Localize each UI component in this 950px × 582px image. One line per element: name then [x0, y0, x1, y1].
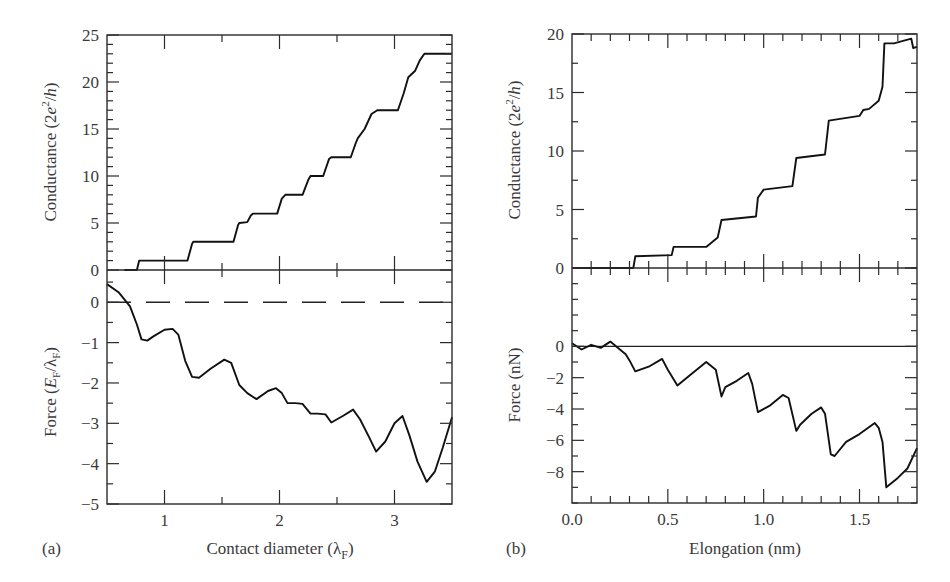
svg-text:5: 5: [91, 214, 100, 233]
svg-text:5: 5: [556, 201, 565, 220]
figure: 0510152025−5−4−3−2−10123 Conductance (2e…: [0, 0, 950, 582]
ylabel-force-a: Force (EF/λF): [41, 347, 62, 437]
svg-text:20: 20: [547, 25, 564, 44]
ylabel-force-b: Force (nN): [505, 347, 524, 422]
svg-text:0: 0: [556, 259, 565, 278]
svg-text:3: 3: [390, 511, 399, 530]
svg-text:0: 0: [91, 261, 100, 280]
svg-text:−2: −2: [546, 369, 564, 388]
svg-text:0.5: 0.5: [657, 510, 678, 529]
svg-text:1: 1: [160, 511, 169, 530]
svg-text:−4: −4: [81, 455, 100, 474]
xlabel-b: Elongation (nm): [689, 539, 801, 558]
conductance-curve-a: [124, 54, 452, 270]
svg-text:−2: −2: [81, 374, 99, 393]
svg-text:15: 15: [547, 84, 564, 103]
xlabel-a: Contact diameter (λF): [206, 539, 353, 562]
tick-labels-a: 0510152025−5−4−3−2−10123: [81, 26, 399, 530]
svg-text:−8: −8: [546, 463, 564, 482]
svg-text:−3: −3: [81, 414, 99, 433]
svg-text:0: 0: [556, 337, 565, 356]
svg-text:−4: −4: [546, 400, 565, 419]
svg-text:20: 20: [82, 73, 99, 92]
svg-text:10: 10: [82, 167, 99, 186]
ylabel-conductance-b: Conductance (2e2/h): [503, 80, 524, 219]
panel-b: 05101520−8−6−4−200.00.51.01.5 Conductanc…: [503, 25, 917, 558]
svg-text:0: 0: [91, 293, 100, 312]
svg-text:1.0: 1.0: [753, 510, 774, 529]
svg-text:25: 25: [82, 26, 99, 45]
svg-text:10: 10: [547, 142, 564, 161]
svg-text:−6: −6: [546, 431, 564, 450]
svg-text:1.5: 1.5: [849, 510, 870, 529]
svg-text:−5: −5: [81, 495, 99, 514]
panel-a: 0510152025−5−4−3−2−10123 Conductance (2e…: [39, 26, 452, 562]
panel-label-b: (b): [506, 539, 526, 558]
force-curve-b: [572, 342, 917, 488]
svg-text:0.0: 0.0: [561, 510, 582, 529]
conductance-curve-b: [572, 39, 917, 268]
panel-label-a: (a): [42, 539, 61, 558]
force-curve-a: [107, 284, 452, 482]
svg-text:−1: −1: [81, 334, 99, 353]
svg-text:15: 15: [82, 120, 99, 139]
ylabel-conductance-a: Conductance (2e2/h): [39, 82, 60, 221]
tick-labels-b: 05101520−8−6−4−200.00.51.01.5: [546, 25, 870, 529]
svg-text:2: 2: [275, 511, 284, 530]
